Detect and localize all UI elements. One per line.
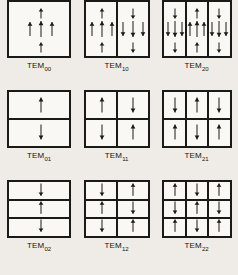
arrow-up-icon <box>194 39 201 57</box>
lobe-down <box>163 199 187 219</box>
lobe-up <box>207 217 231 237</box>
arrow-up-icon <box>216 124 223 144</box>
arrow-down-icon <box>38 219 45 237</box>
arrow-down-icon <box>172 39 179 57</box>
arrow-down-icon <box>130 39 137 57</box>
mode-panel-tem00: TEM00 <box>0 0 78 90</box>
lobe-down <box>185 181 209 201</box>
arrow-down-icon <box>172 201 179 219</box>
arrow-down-icon <box>194 124 201 144</box>
mode-label-tem21: TEM21 <box>184 151 208 162</box>
lobe-up <box>163 181 187 201</box>
mode-box-tem21 <box>162 90 232 148</box>
mode-label-subscript: 01 <box>44 156 51 162</box>
mode-panel-tem11: TEM11 <box>78 90 155 180</box>
mode-label-tem12: TEM12 <box>104 241 128 252</box>
arrow-down-icon <box>130 201 137 219</box>
arrow-cluster-up <box>9 2 69 56</box>
arrow-up-icon <box>99 201 106 219</box>
mode-label-subscript: 21 <box>202 156 209 162</box>
arrow-cluster-down <box>9 182 69 200</box>
mode-box-tem22 <box>162 180 232 238</box>
arrow-down-icon <box>223 22 230 41</box>
arrow-cluster-up <box>208 182 230 200</box>
arrow-up-icon <box>216 183 223 201</box>
arrow-cluster-down <box>86 119 117 146</box>
mode-label-subscript: 12 <box>122 246 129 252</box>
lobe-down <box>207 1 231 57</box>
arrow-cluster-down <box>117 200 148 218</box>
arrow-up-icon <box>172 183 179 201</box>
arrow-cluster-up <box>117 182 148 200</box>
arrow-down-icon <box>216 201 223 219</box>
arrow-cluster-up <box>86 200 117 218</box>
lobe-up <box>116 118 149 147</box>
mode-box-tem12 <box>84 180 150 238</box>
lobe-down <box>185 217 209 237</box>
arrow-down-icon <box>140 22 147 41</box>
mode-label-subscript: 02 <box>44 246 51 252</box>
mode-panel-tem20: TEM20 <box>155 0 238 90</box>
arrow-cluster-down <box>86 218 117 236</box>
lobe-up <box>85 199 118 219</box>
arrow-down-icon <box>194 219 201 237</box>
lobe-up <box>8 1 70 57</box>
lobe-up <box>185 91 209 120</box>
mode-label-subscript: 11 <box>122 156 128 162</box>
arrow-cluster-up <box>117 119 148 146</box>
mode-label-base: TEM <box>184 241 202 250</box>
arrow-up-icon <box>172 219 179 237</box>
lobe-down <box>116 91 149 120</box>
mode-label-subscript: 10 <box>122 66 129 72</box>
mode-box-tem02 <box>7 180 71 238</box>
arrow-up-icon <box>130 124 137 144</box>
mode-label-tem00: TEM00 <box>27 61 51 72</box>
arrow-cluster-up <box>164 182 186 200</box>
arrow-up-icon <box>216 219 223 237</box>
lobe-down <box>85 181 118 201</box>
mode-panel-tem21: TEM21 <box>155 90 238 180</box>
mode-label-base: TEM <box>104 61 122 70</box>
arrow-up-icon <box>38 39 45 57</box>
mode-label-base: TEM <box>27 151 45 160</box>
arrow-cluster-up <box>186 200 208 218</box>
arrow-up-icon <box>49 22 56 41</box>
lobe-up <box>116 181 149 201</box>
lobe-up <box>163 217 187 237</box>
arrow-cluster-down <box>117 2 148 56</box>
lobe-up <box>207 118 231 147</box>
arrow-down-icon <box>216 39 223 57</box>
lobe-up <box>8 199 70 219</box>
arrow-down-icon <box>164 22 171 41</box>
lobe-down <box>85 217 118 237</box>
mode-label-tem10: TEM10 <box>104 61 128 72</box>
lobe-down <box>185 118 209 147</box>
mode-label-base: TEM <box>27 241 45 250</box>
arrow-down-icon <box>38 124 45 144</box>
arrow-cluster-up <box>164 119 186 146</box>
mode-box-tem10 <box>84 0 150 58</box>
arrow-cluster-up <box>164 218 186 236</box>
mode-label-base: TEM <box>105 151 123 160</box>
lobe-up <box>85 91 118 120</box>
arrow-cluster-down <box>117 92 148 119</box>
arrow-cluster-down <box>9 218 69 236</box>
mode-panel-tem12: TEM12 <box>78 180 155 275</box>
arrow-cluster-down <box>9 119 69 146</box>
arrow-up-icon <box>88 22 95 41</box>
arrow-cluster-up <box>86 2 117 56</box>
lobe-down <box>207 91 231 120</box>
arrow-up-icon <box>186 22 193 41</box>
lobe-up <box>85 1 118 57</box>
lobe-down <box>85 118 118 147</box>
mode-label-base: TEM <box>184 61 202 70</box>
arrow-cluster-up <box>9 200 69 218</box>
arrow-cluster-down <box>186 182 208 200</box>
arrow-cluster-up <box>186 92 208 119</box>
mode-label-tem20: TEM20 <box>184 61 208 72</box>
arrow-cluster-down <box>164 2 186 56</box>
lobe-down <box>163 91 187 120</box>
arrow-up-icon <box>194 201 201 219</box>
lobe-down <box>163 1 187 57</box>
mode-label-subscript: 00 <box>44 66 51 72</box>
